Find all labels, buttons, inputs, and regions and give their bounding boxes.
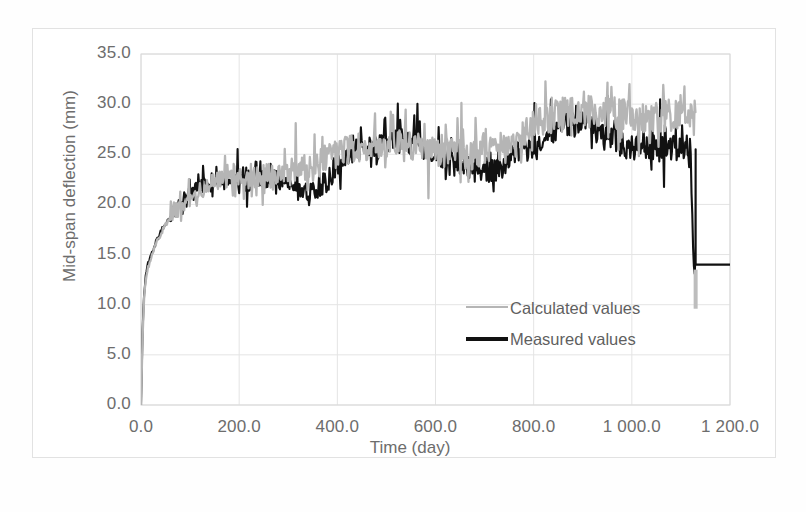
legend-swatch-measured bbox=[466, 337, 508, 341]
figure-container: Mid-span deflection (mm) Time (day) 0.05… bbox=[0, 0, 806, 512]
legend-swatch-calculated bbox=[466, 306, 508, 308]
y-tick-label: 30.0 bbox=[59, 93, 131, 113]
y-tick-label: 5.0 bbox=[59, 344, 131, 364]
y-tick-label: 10.0 bbox=[59, 294, 131, 314]
y-tick-label: 25.0 bbox=[59, 143, 131, 163]
y-tick-label: 0.0 bbox=[59, 394, 131, 414]
legend-label-calculated: Calculated values bbox=[510, 299, 640, 318]
legend-label-measured: Measured values bbox=[510, 330, 636, 349]
y-tick-label: 35.0 bbox=[59, 43, 131, 63]
x-axis-title: Time (day) bbox=[290, 438, 530, 458]
y-tick-label: 20.0 bbox=[59, 193, 131, 213]
x-tick-label: 1 200.0 bbox=[670, 417, 790, 437]
y-tick-label: 15.0 bbox=[59, 244, 131, 264]
